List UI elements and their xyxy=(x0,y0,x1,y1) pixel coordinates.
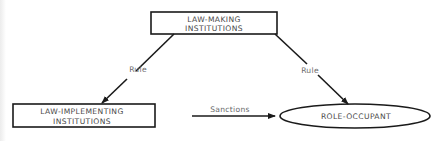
role-occupant-label: ROLE-OCCUPANT xyxy=(321,112,391,121)
node-law-making-institutions: LAW-MAKING INSTITUTIONS xyxy=(151,12,277,34)
rule-left-label: Rule xyxy=(129,65,147,74)
edge-sanctions: Sanctions xyxy=(192,105,275,116)
node-law-implementing-institutions: LAW-IMPLEMENTING INSTITUTIONS xyxy=(13,104,155,127)
law-implementing-label-line2: INSTITUTIONS xyxy=(53,117,111,126)
node-role-occupant: ROLE-OCCUPANT xyxy=(280,104,430,128)
rule-right-arrow xyxy=(318,75,348,104)
diagram-svg: LAW-MAKING INSTITUTIONS LAW-IMPLEMENTING… xyxy=(0,0,443,141)
edge-rule-to-law-implementing: Rule xyxy=(102,34,174,103)
edge-rule-to-role-occupant: Rule xyxy=(275,34,348,104)
law-implementing-label-line1: LAW-IMPLEMENTING xyxy=(40,107,123,116)
law-making-label-line2: INSTITUTIONS xyxy=(185,24,243,33)
rule-right-label: Rule xyxy=(301,66,319,75)
sanctions-label: Sanctions xyxy=(210,105,250,114)
rule-left-arrow xyxy=(102,79,127,103)
diagram-canvas: LAW-MAKING INSTITUTIONS LAW-IMPLEMENTING… xyxy=(0,0,443,141)
rule-right-line-upper xyxy=(275,34,307,64)
law-making-label-line1: LAW-MAKING xyxy=(187,15,241,24)
